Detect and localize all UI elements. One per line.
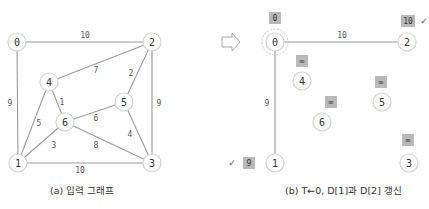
graph-b-edge-weight-0-2: 10 <box>337 31 347 40</box>
graph-a-edge-weight-1-3: 10 <box>75 166 85 175</box>
graph-b-node-4: 4 <box>293 72 311 90</box>
graph-a-edge-weight-4-1: 5 <box>37 119 42 128</box>
graph-b-node-label-3: 3 <box>406 158 412 169</box>
graph-a-edge-weight-6-5: 6 <box>94 114 99 123</box>
graph-b-distance-labels: 09✓10✓∞∞∞∞ <box>228 12 428 169</box>
graph-b-edge-weight-0-1: 9 <box>265 99 270 108</box>
distance-value-6: ∞ <box>329 98 334 107</box>
graph-b-node-label-4: 4 <box>299 76 305 87</box>
graph-b-node-6: 6 <box>313 113 331 131</box>
graph-b-node-0: 0 <box>262 29 288 55</box>
graph-a-node-label-4: 4 <box>46 77 52 88</box>
graph-a-edge-weight-4-6: 1 <box>60 98 65 107</box>
graph-a-node-label-1: 1 <box>15 158 21 169</box>
distance-value-3: ∞ <box>406 136 411 145</box>
graph-a-node-4: 4 <box>40 73 58 91</box>
graph-b-node-label-5: 5 <box>379 97 385 108</box>
graph-b-node-label-0: 0 <box>272 37 278 48</box>
graph-a-node-0: 0 <box>8 33 26 51</box>
graph-a-node-label-3: 3 <box>149 158 155 169</box>
graph-b-node-2: 2 <box>398 33 416 51</box>
graph-a-edge-0-1 <box>17 42 18 163</box>
check-icon-1: ✓ <box>228 158 236 168</box>
graph-a-edge-weight-2-4: 7 <box>94 66 99 75</box>
graph-a-node-label-6: 6 <box>62 117 68 128</box>
graph-a-node-label-5: 5 <box>121 97 127 108</box>
caption-b: (b) T←0, D[1]과 D[2] 갱신 <box>285 183 402 197</box>
graph-a-node-label-2: 2 <box>149 37 155 48</box>
graph-b-nodes: 0123456 <box>262 29 418 172</box>
graph-a-edge-weight-5-3: 4 <box>128 130 133 139</box>
distance-value-4: ∞ <box>300 57 305 66</box>
graph-a-node-3: 3 <box>143 154 161 172</box>
graph-b-node-label-2: 2 <box>404 37 410 48</box>
graph-a-edges: 10972915643810 <box>8 31 162 175</box>
right-arrow-icon <box>222 33 240 51</box>
graph-a-edge-weight-6-3: 8 <box>94 141 99 150</box>
graph-b-node-1: 1 <box>266 154 284 172</box>
check-icon-2: ✓ <box>420 16 428 26</box>
graph-a-edge-weight-6-1: 3 <box>52 141 57 150</box>
graph-a-edge-weight-2-5: 2 <box>129 69 134 78</box>
distance-value-1: 9 <box>247 159 252 168</box>
distance-value-5: ∞ <box>379 78 384 87</box>
distance-value-0: 0 <box>273 14 278 23</box>
graph-a-node-6: 6 <box>56 113 74 131</box>
graph-a-node-5: 5 <box>115 93 133 111</box>
caption-a: (a) 입력 그래프 <box>50 183 114 197</box>
graph-a-edge-weight-0-1: 9 <box>8 99 13 108</box>
graph-a-edge-weight-0-2: 10 <box>80 31 90 40</box>
graph-a-node-2: 2 <box>143 33 161 51</box>
graph-a-edge-4-1 <box>18 82 49 163</box>
graph-a-edge-6-3 <box>65 122 152 163</box>
graph-b-node-label-6: 6 <box>319 117 325 128</box>
graph-a-edge-weight-2-3: 9 <box>157 99 162 108</box>
graph-a-node-1: 1 <box>9 154 27 172</box>
graph-b-node-3: 3 <box>400 154 418 172</box>
graph-a-node-label-0: 0 <box>14 37 20 48</box>
graph-b-node-label-1: 1 <box>272 158 278 169</box>
graph-b-node-5: 5 <box>373 93 391 111</box>
dijkstra-diagram: 10972915643810 0123456 109 0123456 09✓10… <box>0 0 429 209</box>
distance-value-2: 10 <box>403 17 413 26</box>
